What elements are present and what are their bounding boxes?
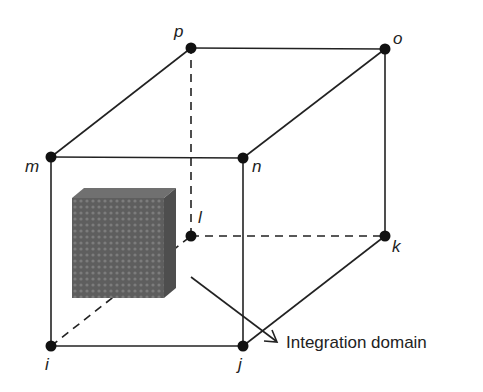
node-j <box>238 341 249 352</box>
node-k <box>380 231 391 242</box>
label-i: i <box>45 355 50 374</box>
annotation-arrow <box>191 277 277 342</box>
node-i <box>46 341 57 352</box>
label-o: o <box>393 29 402 48</box>
node-l <box>186 231 197 242</box>
node-n <box>238 153 249 164</box>
cube-diagram: i j k l m n o p Integration domain <box>0 0 483 392</box>
label-p: p <box>173 22 183 41</box>
integration-domain-label: Integration domain <box>286 333 427 352</box>
label-k: k <box>392 237 402 256</box>
label-m: m <box>25 157 39 176</box>
node-o <box>380 44 391 55</box>
label-l: l <box>198 208 203 227</box>
node-m <box>46 152 57 163</box>
integration-domain-cube <box>72 188 176 298</box>
label-n: n <box>252 157 261 176</box>
label-j: j <box>236 355 243 374</box>
node-p <box>186 43 197 54</box>
